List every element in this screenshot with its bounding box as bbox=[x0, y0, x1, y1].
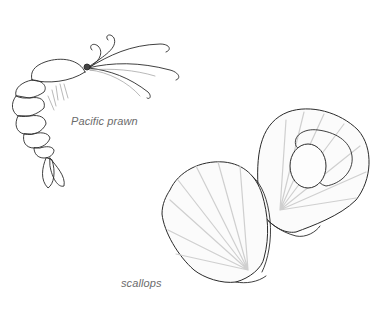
illustration-canvas bbox=[0, 0, 385, 309]
scallops-caption: scallops bbox=[121, 277, 162, 289]
prawn-caption: Pacific prawn bbox=[71, 115, 138, 127]
scallops-drawing bbox=[162, 109, 369, 283]
prawn-drawing bbox=[12, 35, 179, 188]
